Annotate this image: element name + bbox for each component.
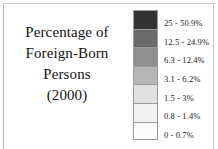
legend-item: 0.8 - 1.4% <box>133 103 215 122</box>
legend-item-label: 3.1 - 6.2% <box>164 74 200 84</box>
legend-swatch <box>133 122 158 141</box>
legend-item: 6.3 - 12.4% <box>133 47 215 66</box>
legend-item: 1.5 - 3% <box>133 84 215 103</box>
legend-swatch <box>133 103 158 122</box>
legend-swatch <box>133 66 158 85</box>
legend-scale: 25 - 50.9% 12.5 - 24.9% 6.3 - 12.4% 3.1 … <box>133 10 215 141</box>
legend-swatch <box>133 84 158 103</box>
legend-item-label: 12.5 - 24.9% <box>164 37 209 47</box>
legend-title-line-3: Persons <box>6 64 128 85</box>
legend-title-line-4: (2000) <box>6 85 128 106</box>
legend-item: 12.5 - 24.9% <box>133 29 215 48</box>
legend-item-label: 25 - 50.9% <box>164 18 203 28</box>
legend-swatch <box>133 29 158 48</box>
legend-item: 0 - 0.7% <box>133 122 215 141</box>
frame-top-rule <box>4 3 215 4</box>
legend-item-label: 0 - 0.7% <box>164 130 194 140</box>
legend-item: 3.1 - 6.2% <box>133 66 215 85</box>
legend-title-line-1: Percentage of <box>6 22 128 43</box>
legend-title-line-2: Foreign-Born <box>6 43 128 64</box>
frame-left-rule <box>3 3 4 149</box>
map-legend-figure: Percentage of Foreign-Born Persons (2000… <box>0 0 218 149</box>
legend-title: Percentage of Foreign-Born Persons (2000… <box>6 22 128 106</box>
legend-item-label: 6.3 - 12.4% <box>164 55 205 65</box>
legend-item: 25 - 50.9% <box>133 10 215 29</box>
legend-swatch <box>133 10 158 29</box>
legend-item-label: 0.8 - 1.4% <box>164 111 200 121</box>
legend-swatch <box>133 47 158 66</box>
legend-item-label: 1.5 - 3% <box>164 93 194 103</box>
